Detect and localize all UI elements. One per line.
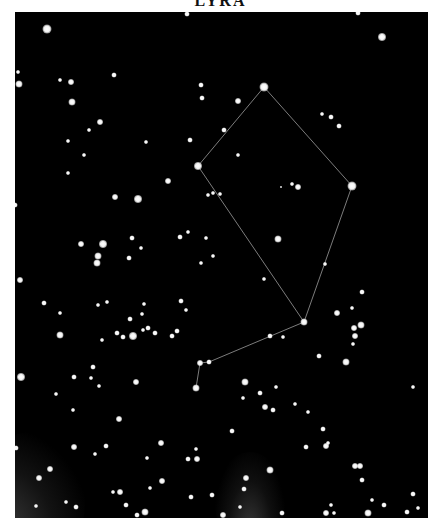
- star: [112, 194, 118, 200]
- star: [112, 73, 117, 78]
- star: [17, 373, 25, 381]
- star: [275, 236, 282, 243]
- star: [124, 503, 129, 508]
- star: [91, 365, 96, 370]
- star: [236, 153, 240, 157]
- star: [348, 182, 357, 191]
- star: [326, 441, 330, 445]
- star: [129, 332, 137, 340]
- star: [165, 178, 171, 184]
- star: [323, 510, 329, 516]
- star: [16, 81, 23, 88]
- star: [200, 96, 205, 101]
- star: [99, 240, 107, 248]
- star: [36, 475, 42, 481]
- star: [142, 302, 146, 306]
- star: [242, 379, 249, 386]
- star: [117, 489, 123, 495]
- star: [194, 162, 202, 170]
- star: [357, 463, 363, 469]
- star: [186, 457, 191, 462]
- star: [242, 487, 247, 492]
- star: [268, 334, 273, 339]
- star: [321, 427, 326, 432]
- star: [378, 33, 386, 41]
- star: [71, 444, 77, 450]
- star: [134, 195, 142, 203]
- star: [68, 79, 74, 85]
- star: [47, 466, 53, 472]
- star: [133, 379, 139, 385]
- star: [293, 402, 297, 406]
- star: [351, 342, 355, 346]
- star: [58, 78, 62, 82]
- star: [260, 83, 269, 92]
- star: [370, 498, 374, 502]
- star: [97, 384, 101, 388]
- star: [159, 478, 165, 484]
- star: [34, 504, 38, 508]
- star: [262, 277, 266, 281]
- star: [337, 124, 342, 129]
- star: [16, 70, 20, 74]
- star: [416, 506, 420, 510]
- star: [301, 319, 308, 326]
- star: [66, 171, 70, 175]
- star: [220, 512, 226, 518]
- star: [360, 290, 365, 295]
- constellation-title: LYRA: [0, 0, 441, 10]
- constellation-tail-line: [196, 322, 304, 388]
- star: [170, 334, 175, 339]
- star: [382, 503, 387, 508]
- star: [17, 277, 23, 283]
- star: [193, 385, 200, 392]
- star: [199, 261, 203, 265]
- star: [352, 333, 358, 339]
- star: [411, 385, 415, 389]
- star: [188, 138, 193, 143]
- star: [66, 139, 70, 143]
- star: [243, 475, 249, 481]
- star: [189, 495, 194, 500]
- star: [87, 128, 91, 132]
- star: [210, 493, 215, 498]
- star: [141, 328, 145, 332]
- star: [184, 308, 188, 312]
- star: [175, 329, 180, 334]
- star: [290, 182, 294, 186]
- star: [127, 256, 132, 261]
- star: [329, 115, 334, 120]
- star: [258, 391, 263, 396]
- star: [104, 444, 109, 449]
- star: [144, 140, 148, 144]
- star: [94, 260, 101, 267]
- star: [320, 112, 324, 116]
- star: [148, 486, 152, 490]
- star: [204, 236, 208, 240]
- star: [64, 500, 68, 504]
- star: [54, 392, 58, 396]
- star: [121, 335, 126, 340]
- star: [96, 303, 100, 307]
- star: [72, 375, 77, 380]
- star: [179, 299, 184, 304]
- star: [218, 192, 222, 196]
- star: [115, 331, 120, 336]
- star: [178, 235, 183, 240]
- star: [351, 325, 357, 331]
- star: [323, 262, 327, 266]
- star: [329, 503, 333, 507]
- star: [334, 310, 340, 316]
- star: [365, 510, 372, 517]
- star: [42, 301, 47, 306]
- star: [360, 478, 365, 483]
- star: [281, 335, 285, 339]
- star: [74, 505, 79, 510]
- star: [128, 317, 133, 322]
- star: [97, 119, 103, 125]
- star: [158, 440, 164, 446]
- star: [295, 184, 301, 190]
- star: [350, 306, 354, 310]
- star: [135, 513, 140, 518]
- constellation-parallelogram-line: [198, 87, 352, 322]
